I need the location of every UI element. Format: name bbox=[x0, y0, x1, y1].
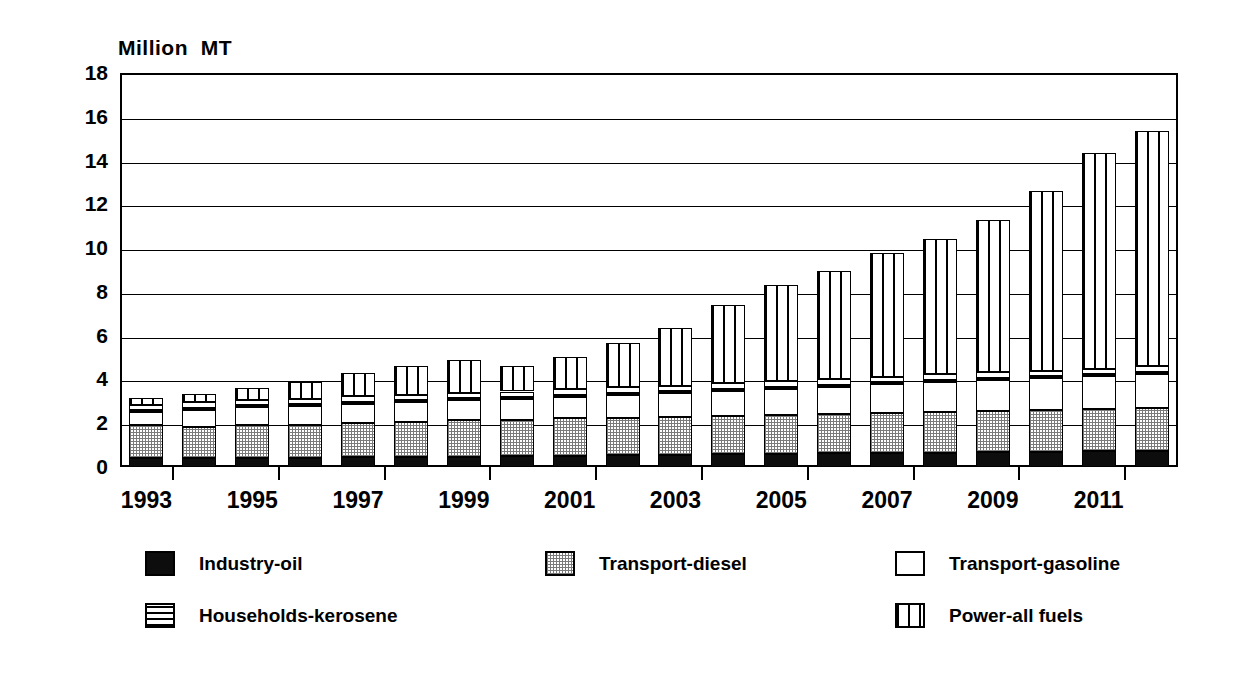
bar-2007[interactable] bbox=[870, 73, 904, 467]
bar-segment-transport-diesel bbox=[923, 412, 957, 453]
y-axis-tick-label: 14 bbox=[54, 149, 108, 173]
bar-segment-households-kerosene bbox=[394, 395, 428, 403]
bar-1999[interactable] bbox=[447, 73, 481, 467]
bar-segment-power-all-fuels bbox=[1029, 191, 1063, 370]
bar-segment-industry-oil bbox=[129, 458, 163, 467]
bar-1995[interactable] bbox=[235, 73, 269, 467]
legend-item-industry-oil[interactable]: Industry-oil bbox=[145, 551, 302, 576]
x-axis-tick-label: 2007 bbox=[861, 487, 912, 514]
bar-2012[interactable] bbox=[1135, 73, 1169, 467]
y-axis-tick-label: 8 bbox=[54, 280, 108, 304]
bar-2004[interactable] bbox=[711, 73, 745, 467]
x-axis-tick bbox=[1018, 467, 1020, 480]
bar-1998[interactable] bbox=[394, 73, 428, 467]
chart-legend: Industry-oilTransport-dieselTransport-ga… bbox=[0, 543, 1242, 663]
bar-segment-households-kerosene bbox=[870, 377, 904, 385]
bar-segment-transport-diesel bbox=[1082, 409, 1116, 451]
bar-2008[interactable] bbox=[923, 73, 957, 467]
bar-2000[interactable] bbox=[500, 73, 534, 467]
bar-segment-power-all-fuels bbox=[1082, 153, 1116, 369]
bar-1997[interactable] bbox=[341, 73, 375, 467]
x-axis-tick bbox=[595, 467, 597, 480]
x-axis-tick bbox=[489, 467, 491, 480]
bar-1996[interactable] bbox=[288, 73, 322, 467]
y-axis-tick-label: 0 bbox=[54, 455, 108, 479]
bar-segment-power-all-fuels bbox=[447, 360, 481, 393]
bar-segment-industry-oil bbox=[341, 457, 375, 467]
x-axis-tick-label: 1995 bbox=[227, 487, 278, 514]
y-axis-tick-label: 6 bbox=[54, 324, 108, 348]
bar-segment-households-kerosene bbox=[288, 399, 322, 407]
bar-segment-transport-gasoline bbox=[923, 382, 957, 412]
x-axis-tick-label: 2009 bbox=[967, 487, 1018, 514]
bar-segment-transport-diesel bbox=[447, 420, 481, 456]
bar-2009[interactable] bbox=[976, 73, 1010, 467]
x-axis-tick bbox=[701, 467, 703, 480]
bar-segment-households-kerosene bbox=[500, 392, 534, 400]
bar-2003[interactable] bbox=[658, 73, 692, 467]
bar-segment-transport-gasoline bbox=[341, 404, 375, 423]
bar-segment-households-kerosene bbox=[817, 379, 851, 387]
x-axis-tick-label: 2005 bbox=[756, 487, 807, 514]
bar-segment-households-kerosene bbox=[923, 374, 957, 382]
bar-segment-transport-gasoline bbox=[129, 412, 163, 425]
bar-segment-industry-oil bbox=[500, 456, 534, 467]
bar-segment-power-all-fuels bbox=[394, 366, 428, 394]
bar-segment-households-kerosene bbox=[1082, 369, 1116, 377]
vertical-lines-swatch bbox=[895, 603, 925, 628]
bar-2001[interactable] bbox=[553, 73, 587, 467]
bar-segment-transport-diesel bbox=[129, 425, 163, 458]
white-swatch bbox=[895, 551, 925, 576]
bar-segment-transport-gasoline bbox=[658, 393, 692, 417]
bar-segment-industry-oil bbox=[553, 456, 587, 467]
bar-segment-power-all-fuels bbox=[1135, 131, 1169, 366]
bar-segment-transport-gasoline bbox=[606, 395, 640, 418]
bar-segment-households-kerosene bbox=[235, 400, 269, 408]
bar-segment-industry-oil bbox=[870, 453, 904, 467]
bar-1993[interactable] bbox=[129, 73, 163, 467]
bar-segment-industry-oil bbox=[817, 453, 851, 467]
x-axis-tick-label: 2001 bbox=[544, 487, 595, 514]
bar-segment-households-kerosene bbox=[711, 383, 745, 391]
bar-segment-transport-gasoline bbox=[235, 407, 269, 425]
bar-segment-transport-diesel bbox=[341, 423, 375, 457]
bar-segment-households-kerosene bbox=[129, 405, 163, 413]
bar-2002[interactable] bbox=[606, 73, 640, 467]
bar-2010[interactable] bbox=[1029, 73, 1063, 467]
legend-item-transport-diesel[interactable]: Transport-diesel bbox=[545, 551, 747, 576]
bar-segment-transport-diesel bbox=[711, 416, 745, 454]
bar-segment-industry-oil bbox=[235, 458, 269, 467]
y-axis-tick-label: 16 bbox=[54, 105, 108, 129]
bar-segment-households-kerosene bbox=[553, 389, 587, 397]
x-axis-tick bbox=[172, 467, 174, 480]
legend-item-households-kerosene[interactable]: Households-kerosene bbox=[145, 603, 398, 628]
x-axis-tick-label: 2011 bbox=[1074, 487, 1124, 514]
bar-segment-power-all-fuels bbox=[764, 285, 798, 381]
legend-item-transport-gasoline[interactable]: Transport-gasoline bbox=[895, 551, 1120, 576]
bar-segment-transport-gasoline bbox=[1029, 378, 1063, 410]
bar-2011[interactable] bbox=[1082, 73, 1116, 467]
gray-dotted-swatch bbox=[545, 551, 575, 576]
bar-segment-transport-diesel bbox=[606, 418, 640, 455]
bar-segment-transport-gasoline bbox=[447, 400, 481, 420]
bar-segment-households-kerosene bbox=[182, 402, 216, 410]
bar-segment-power-all-fuels bbox=[976, 220, 1010, 372]
bar-2005[interactable] bbox=[764, 73, 798, 467]
bar-segment-power-all-fuels bbox=[341, 373, 375, 396]
bar-segment-transport-gasoline bbox=[1082, 376, 1116, 409]
legend-label: Transport-diesel bbox=[599, 553, 747, 575]
bar-segment-industry-oil bbox=[288, 458, 322, 467]
bar-2006[interactable] bbox=[817, 73, 851, 467]
legend-item-power-all-fuels[interactable]: Power-all fuels bbox=[895, 603, 1083, 628]
bar-segment-power-all-fuels bbox=[923, 239, 957, 375]
y-axis-tick-label: 10 bbox=[54, 236, 108, 260]
bar-segment-industry-oil bbox=[1135, 451, 1169, 467]
legend-label: Households-kerosene bbox=[199, 605, 398, 627]
bar-segment-households-kerosene bbox=[764, 381, 798, 389]
x-axis-tick bbox=[384, 467, 386, 480]
legend-label: Transport-gasoline bbox=[949, 553, 1120, 575]
bar-segment-transport-gasoline bbox=[553, 397, 587, 419]
bar-1994[interactable] bbox=[182, 73, 216, 467]
x-axis-ticks bbox=[120, 467, 1178, 481]
bar-segment-power-all-fuels bbox=[129, 398, 163, 405]
